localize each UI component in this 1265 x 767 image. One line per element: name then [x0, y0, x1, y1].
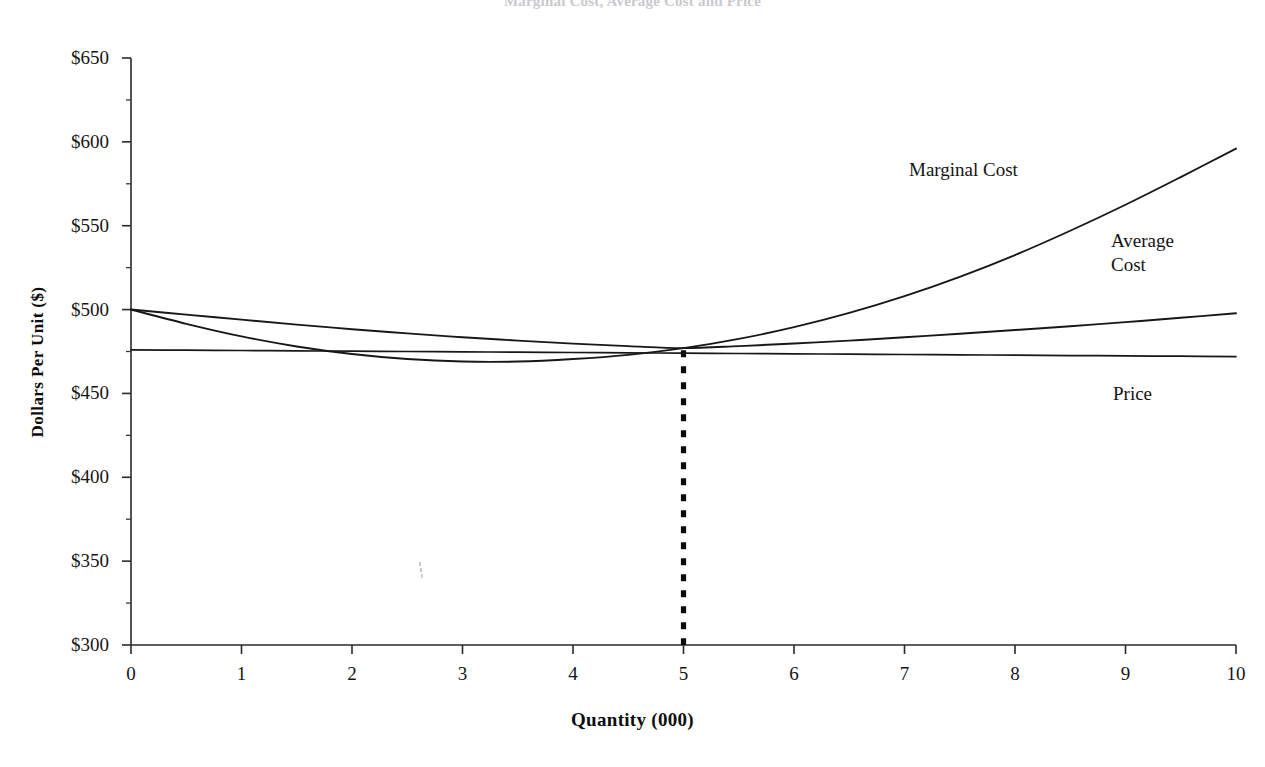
y-tick-label-600: $600 [0, 132, 109, 151]
x-axis-ticks [131, 645, 1236, 654]
y-axis-title: Dollars Per Unit ($) [28, 247, 48, 477]
x-tick-label-9: 9 [1086, 664, 1166, 683]
series-label-price: Price [1113, 382, 1152, 406]
y-tick-label-300: $300 [0, 635, 109, 654]
cost-curves-figure: Marginal Cost, Average Cost and Price $3… [0, 0, 1265, 767]
series-label-marginal-cost: Marginal Cost [909, 158, 1018, 182]
x-tick-label-10: 10 [1196, 664, 1265, 683]
scan-artifact-speck [417, 561, 426, 579]
plot-canvas [0, 0, 1265, 767]
x-tick-label-4: 4 [533, 664, 613, 683]
y-tick-label-350: $350 [0, 551, 109, 570]
x-tick-label-8: 8 [975, 664, 1055, 683]
y-tick-label-550: $550 [0, 216, 109, 235]
series-line-average-cost [131, 310, 1236, 349]
series-line-marginal-cost [131, 149, 1236, 362]
x-tick-label-1: 1 [202, 664, 282, 683]
x-tick-label-3: 3 [423, 664, 503, 683]
series-label-average-cost: Average Cost [1111, 229, 1174, 277]
x-tick-label-5: 5 [644, 664, 724, 683]
x-tick-label-2: 2 [312, 664, 392, 683]
y-tick-label-450: $450 [0, 383, 109, 402]
y-tick-label-500: $500 [0, 300, 109, 319]
x-tick-label-7: 7 [865, 664, 945, 683]
x-tick-label-0: 0 [91, 664, 171, 683]
x-axis-title: Quantity (000) [0, 709, 1265, 731]
x-tick-label-6: 6 [754, 664, 834, 683]
data-series-layer [131, 149, 1236, 362]
y-tick-label-650: $650 [0, 48, 109, 67]
y-tick-label-400: $400 [0, 467, 109, 486]
